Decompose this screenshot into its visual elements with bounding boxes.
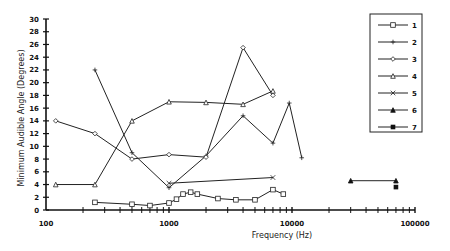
data-series [53, 45, 398, 207]
y-tick-label: 10 [29, 143, 39, 151]
y-tick-label: 24 [29, 54, 39, 62]
y-tick-label: 0 [34, 207, 39, 215]
legend: 1234567 [370, 14, 422, 132]
legend-label: 1 [412, 22, 417, 30]
legend-label: 2 [412, 39, 417, 47]
legend-label: 4 [412, 73, 417, 81]
y-tick-label: 14 [29, 117, 39, 125]
x-axis-title: Frequency (Hz) [252, 231, 312, 240]
x-tick-label: 100 [39, 220, 54, 228]
x-tick-label: 1000 [159, 220, 179, 228]
y-tick-label: 26 [29, 41, 39, 49]
series-2 [93, 68, 304, 190]
x-tick-label: 100000 [400, 220, 429, 228]
legend-label: 3 [412, 56, 417, 64]
y-tick-label: 28 [29, 28, 39, 36]
series-6 [348, 178, 398, 183]
y-axis-title: Minimum Audible Angle (Degrees) [17, 49, 26, 186]
y-tick-label: 8 [34, 156, 39, 164]
legend-label: 5 [412, 90, 417, 98]
y-tick-label: 22 [29, 66, 39, 74]
y-tick-label: 2 [34, 194, 39, 202]
y-tick-label: 12 [29, 130, 39, 138]
series-1 [93, 187, 286, 208]
y-tick-label: 6 [34, 168, 39, 176]
y-tick-label: 20 [29, 79, 39, 87]
series-4 [53, 89, 275, 187]
y-tick-label: 30 [29, 16, 39, 24]
series-7 [394, 185, 399, 190]
y-tick-label: 4 [34, 181, 39, 189]
x-tick-label: 10000 [280, 220, 304, 228]
y-tick-label: 16 [29, 105, 39, 113]
y-tick-label: 18 [29, 92, 39, 100]
chart: 0246810121416182022242628301001000100001… [0, 0, 450, 251]
series-5 [167, 175, 276, 185]
legend-label: 6 [412, 107, 417, 115]
legend-label: 7 [412, 124, 417, 132]
